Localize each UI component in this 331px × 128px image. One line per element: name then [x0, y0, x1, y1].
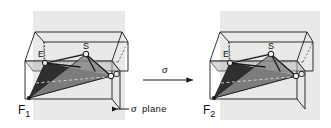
left-label-F1: F1: [18, 104, 30, 119]
right-atom-F2: [212, 96, 216, 100]
left-label-O: O: [113, 70, 120, 79]
left-label-S: S: [83, 42, 89, 51]
right-label-S: S: [268, 42, 274, 51]
right-atom-S: [268, 51, 274, 57]
left-label-F1-sub: 1: [25, 109, 30, 119]
left-atom-S: [83, 51, 89, 57]
left-atom-E: [42, 60, 47, 65]
figure-container: E S O F1 E S O F2 σ σ plane: [0, 0, 331, 128]
right-label-E: E: [223, 50, 229, 59]
sigma-operation-symbol: σ: [162, 64, 167, 75]
right-label-O: O: [298, 70, 305, 79]
right-label-F2: F2: [203, 104, 215, 119]
sigma-plane-text: plane: [142, 104, 167, 114]
left-atom-F1: [27, 96, 31, 100]
left-label-E: E: [38, 50, 44, 59]
right-atom-E: [227, 60, 232, 65]
right-label-F2-sub: 2: [210, 109, 215, 119]
sigma-plane-symbol: σ: [131, 103, 136, 114]
